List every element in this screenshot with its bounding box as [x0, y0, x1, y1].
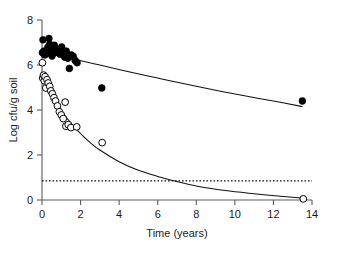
data-point-filled: [74, 59, 81, 66]
data-point-filled: [40, 36, 47, 43]
y-tick-label: 4: [27, 104, 33, 116]
x-tick-label: 8: [193, 208, 199, 220]
data-point-open: [73, 123, 80, 130]
scatter-plot-figure: 02468 02468101214 Time (years) Log cfu/g…: [0, 0, 338, 258]
x-tick-label: 10: [229, 208, 241, 220]
data-point-filled: [299, 98, 306, 105]
data-point-open: [300, 195, 307, 202]
lower-fit-curve: [42, 74, 304, 198]
x-tick-label: 4: [116, 208, 122, 220]
y-axis-tick-labels: 02468: [27, 14, 33, 206]
filled-circle-series: [39, 35, 306, 104]
y-axis-ticks: [37, 20, 42, 200]
y-tick-label: 0: [27, 194, 33, 206]
x-axis-ticks: [42, 200, 312, 205]
data-point-filled: [66, 65, 73, 72]
y-axis-title: Log cfu/g soil: [7, 78, 19, 143]
x-tick-label: 6: [155, 208, 161, 220]
x-tick-label: 0: [39, 208, 45, 220]
x-axis-tick-labels: 02468101214: [39, 208, 318, 220]
x-axis-title: Time (years): [146, 227, 207, 239]
data-point-open: [60, 115, 67, 122]
y-tick-label: 2: [27, 149, 33, 161]
data-point-filled: [98, 85, 105, 92]
x-tick-label: 2: [78, 208, 84, 220]
y-tick-label: 8: [27, 14, 33, 26]
data-point-open: [62, 99, 69, 106]
plot-canvas: 02468 02468101214 Time (years) Log cfu/g…: [0, 0, 338, 258]
x-tick-label: 14: [306, 208, 318, 220]
y-tick-label: 6: [27, 59, 33, 71]
x-tick-label: 12: [267, 208, 279, 220]
axes-group: [42, 20, 312, 200]
data-point-open: [39, 59, 46, 66]
data-point-open: [99, 139, 106, 146]
upper-fit-curve: [78, 60, 303, 107]
